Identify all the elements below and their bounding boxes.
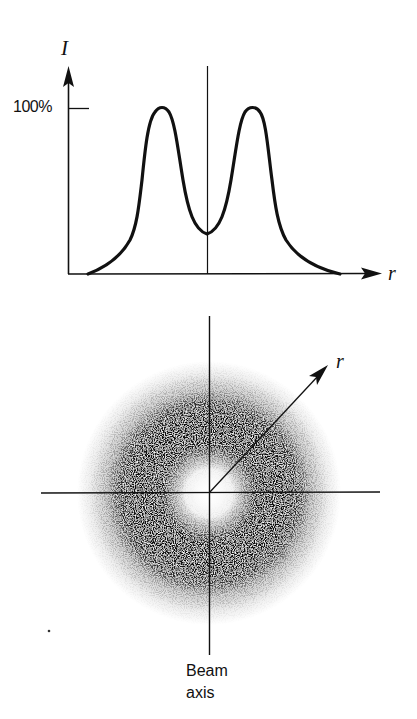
beam-profile-figure [0,0,417,719]
beam-axis-label-line1: Beam [186,660,228,682]
beam-axis-label-line2: axis [186,682,228,704]
x-axis-label: r [388,262,396,285]
y-tick-label: 100% [13,98,52,116]
intensity-profile-plot [63,66,382,280]
intensity-curve [88,108,340,275]
scan-artifact-dot [48,630,51,633]
ring-beam-pattern [41,316,380,655]
x-axis [68,274,366,275]
beam-axis-label: Beam axis [186,660,228,704]
y-axis-label: I [61,36,68,61]
radial-arrow-label: r [336,350,344,373]
